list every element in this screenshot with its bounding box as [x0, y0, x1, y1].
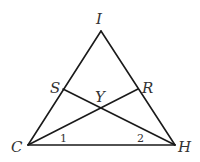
segment-CR — [28, 89, 138, 145]
segment-SH — [63, 89, 175, 145]
segment-IH — [101, 31, 175, 145]
segment-IC — [28, 31, 101, 145]
label-S: S — [50, 79, 60, 97]
label-I: I — [95, 10, 103, 28]
label-C: C — [11, 138, 23, 156]
triangle-diagram: I C H S R Y 1 2 — [0, 0, 200, 162]
label-R: R — [141, 79, 153, 97]
angle-1-label: 1 — [60, 132, 67, 145]
label-H: H — [177, 138, 192, 156]
angle-2-label: 2 — [137, 132, 144, 145]
label-Y: Y — [95, 88, 107, 106]
